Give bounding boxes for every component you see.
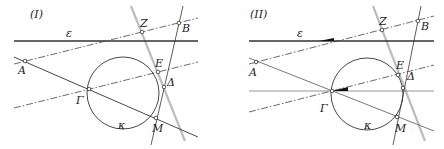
point-a — [254, 60, 258, 64]
point-b — [177, 21, 181, 25]
point-a — [23, 59, 27, 63]
label-gamma: Γ — [319, 102, 328, 115]
label-b: B — [181, 22, 190, 35]
panel-1-title: (I) — [30, 8, 43, 21]
label-m: M — [151, 122, 164, 135]
label-epsilon: ε — [66, 27, 72, 40]
panel-2: (II) ε A Z B E Δ Γ M — [248, 6, 434, 145]
geometry-figure: (I) ε A Z B E Δ Γ M κ (II) — [0, 0, 444, 149]
label-epsilon: ε — [297, 27, 303, 40]
label-a: A — [248, 66, 257, 79]
point-z — [380, 28, 384, 32]
label-b: B — [420, 20, 429, 33]
point-gamma — [87, 87, 91, 91]
point-m — [395, 115, 399, 119]
label-kappa: κ — [117, 119, 126, 132]
label-e: E — [154, 57, 163, 70]
point-e — [156, 70, 160, 74]
point-m — [154, 116, 158, 120]
panel-1: (I) ε A Z B E Δ Γ M κ — [14, 6, 198, 145]
label-kappa: κ — [363, 119, 372, 132]
panel-2-title: (II) — [250, 8, 267, 21]
label-e: E — [395, 59, 404, 72]
point-z — [140, 30, 144, 34]
label-a: A — [17, 64, 26, 77]
label-delta: Δ — [406, 70, 415, 83]
label-m: M — [394, 122, 407, 135]
point-b — [416, 19, 420, 23]
dashed-line-ab — [249, 16, 434, 64]
label-z: Z — [378, 15, 387, 28]
label-gamma: Γ — [75, 94, 84, 107]
point-e — [396, 73, 400, 77]
point-gamma — [330, 89, 334, 93]
point-delta — [401, 86, 405, 90]
label-z: Z — [139, 17, 148, 30]
point-delta — [162, 85, 166, 89]
label-delta: Δ — [166, 76, 175, 89]
